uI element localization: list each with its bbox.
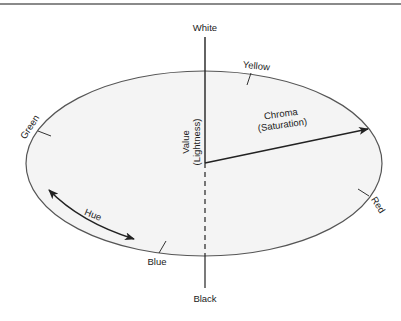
label-red: Red bbox=[369, 194, 388, 215]
label-lightness: (Lightness) bbox=[191, 119, 202, 166]
color-space-diagram: White Black Yellow Green Red Blue Hue Va… bbox=[0, 0, 401, 321]
label-white: White bbox=[193, 22, 217, 33]
label-black: Black bbox=[193, 293, 216, 304]
hue-ellipse bbox=[26, 71, 382, 256]
label-yellow: Yellow bbox=[242, 59, 270, 73]
label-blue: Blue bbox=[147, 256, 166, 267]
label-value: Value bbox=[180, 130, 191, 154]
